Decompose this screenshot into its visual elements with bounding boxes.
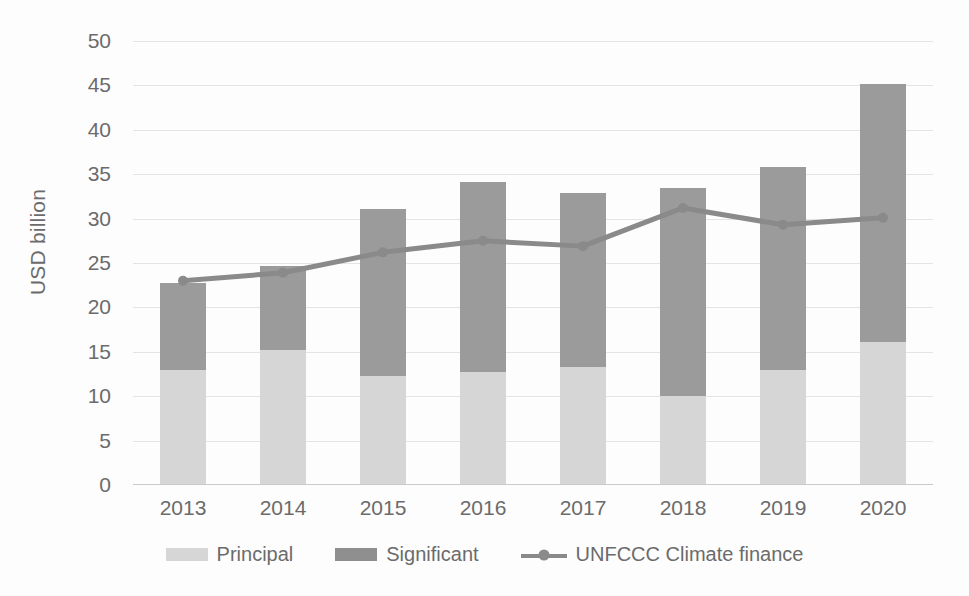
x-axis-tick-label: 2016: [460, 496, 507, 520]
y-axis-tick-label: 35: [55, 162, 133, 186]
y-axis-tick-label: 15: [55, 339, 133, 363]
x-axis-tick-label: 2019: [760, 496, 807, 520]
line-data-point[interactable]: [578, 241, 588, 251]
x-axis-tick-label: 2015: [360, 496, 407, 520]
y-axis-tick-label: 0: [55, 473, 133, 497]
line-series-layer: [133, 41, 933, 485]
x-axis-baseline: [133, 484, 933, 485]
line-data-point[interactable]: [678, 203, 688, 213]
x-axis-tick-label: 2013: [160, 496, 207, 520]
bar-swatch-icon: [166, 548, 208, 561]
legend-item[interactable]: UNFCCC Climate finance: [521, 543, 804, 566]
x-axis-tick-label: 2017: [560, 496, 607, 520]
legend-item[interactable]: Principal: [166, 543, 294, 566]
legend-label: Principal: [217, 543, 294, 566]
line-data-point[interactable]: [878, 213, 888, 223]
line-data-point[interactable]: [178, 276, 188, 286]
line-data-point[interactable]: [278, 268, 288, 278]
chart-container: USD billion 05101520253035404550 2013201…: [0, 0, 969, 596]
x-axis-tick-label: 2014: [260, 496, 307, 520]
legend-label: UNFCCC Climate finance: [576, 543, 804, 566]
x-axis-tick-label: 2018: [660, 496, 707, 520]
legend-label: Significant: [386, 543, 478, 566]
y-axis-tick-label: 20: [55, 295, 133, 319]
x-axis-tick-label: 2020: [860, 496, 907, 520]
legend-line-dot: [538, 549, 549, 560]
plot-area: 05101520253035404550 2013201420152016201…: [133, 41, 933, 485]
y-axis-tick-label: 40: [55, 117, 133, 141]
y-axis-title: USD billion: [26, 152, 50, 332]
line-data-point[interactable]: [378, 247, 388, 257]
y-axis-tick-label: 50: [55, 29, 133, 53]
line-series-unfccc-climate-finance: [183, 208, 883, 281]
y-axis-tick-label: 5: [55, 428, 133, 452]
y-axis-tick-label: 25: [55, 251, 133, 275]
y-axis-tick-label: 10: [55, 384, 133, 408]
line-marker-icon: [521, 548, 567, 562]
y-axis-tick-label: 45: [55, 73, 133, 97]
legend-item[interactable]: Significant: [335, 543, 478, 566]
line-data-point[interactable]: [478, 236, 488, 246]
bar-swatch-icon: [335, 548, 377, 561]
line-data-point[interactable]: [778, 220, 788, 230]
y-axis-tick-label: 30: [55, 206, 133, 230]
chart-legend: PrincipalSignificantUNFCCC Climate finan…: [0, 543, 969, 566]
